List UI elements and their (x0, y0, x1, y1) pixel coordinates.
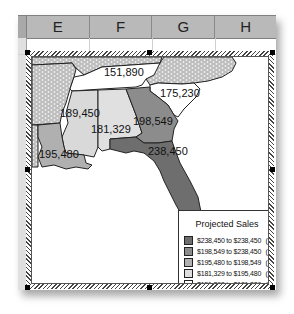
resize-handle-right[interactable] (270, 167, 275, 172)
legend-count: (1) (266, 259, 269, 266)
column-header-bar: E F G H (18, 15, 276, 39)
legend-item: $181,329 to $195,480 (2) (184, 268, 269, 279)
map-area: 151,890 175,230 189,450 181,329 198,549 … (31, 56, 269, 284)
state-value-louisiana: 195,480 (39, 148, 79, 160)
spreadsheet: E F G H (18, 15, 276, 290)
legend-range: $181,329 to $195,480 (197, 270, 261, 277)
legend-swatch-icon (184, 236, 193, 245)
state-value-tennessee: 151,890 (104, 66, 144, 78)
state-texas (32, 125, 38, 167)
legend-item: $198,549 to $238,450 (1) (184, 246, 269, 257)
legend-item: $238,450 to $238,450 (1) (184, 235, 269, 246)
legend-range: $198,549 to $238,450 (197, 248, 261, 255)
state-value-south-carolina: 175,230 (160, 87, 200, 99)
legend-count: (2) (266, 270, 269, 277)
select-all-corner[interactable] (18, 16, 27, 38)
resize-handle-left[interactable] (25, 167, 30, 172)
map-object-frame[interactable]: 151,890 175,230 189,450 181,329 198,549 … (26, 51, 274, 289)
state-value-florida: 238,450 (148, 145, 188, 157)
legend-swatch-icon (184, 269, 193, 278)
column-header-h[interactable]: H (215, 16, 276, 38)
resize-handle-bottom[interactable] (147, 285, 152, 290)
legend-count: (1) (266, 237, 269, 244)
column-header-g[interactable]: G (152, 16, 215, 38)
legend-item: $195,480 to $198,549 (1) (184, 257, 269, 268)
legend-swatch-icon (184, 280, 193, 284)
column-header-f[interactable]: F (90, 16, 153, 38)
legend-count: (2) (266, 281, 269, 284)
resize-handle-top-right[interactable] (270, 50, 275, 55)
resize-handle-top-left[interactable] (25, 50, 30, 55)
resize-handle-top[interactable] (147, 50, 152, 55)
state-value-alabama: 181,329 (91, 123, 131, 135)
column-header-e[interactable]: E (27, 16, 90, 38)
resize-handle-bottom-left[interactable] (25, 285, 30, 290)
legend-range: $238,450 to $238,450 (197, 237, 261, 244)
state-value-georgia: 198,549 (133, 115, 173, 127)
legend-count: (1) (266, 248, 269, 255)
legend-item: $151,890 to $181,329 (2) (184, 279, 269, 284)
legend-title: Projected Sales (179, 219, 269, 229)
legend-range: $151,890 to $181,329 (197, 281, 261, 284)
legend-box[interactable]: Projected Sales $238,450 to $238,450 (1)… (178, 210, 269, 284)
resize-handle-bottom-right[interactable] (270, 285, 275, 290)
legend-range: $195,480 to $198,549 (197, 259, 261, 266)
state-value-mississippi: 189,450 (60, 107, 100, 119)
legend-swatch-icon (184, 247, 193, 256)
legend-swatch-icon (184, 258, 193, 267)
